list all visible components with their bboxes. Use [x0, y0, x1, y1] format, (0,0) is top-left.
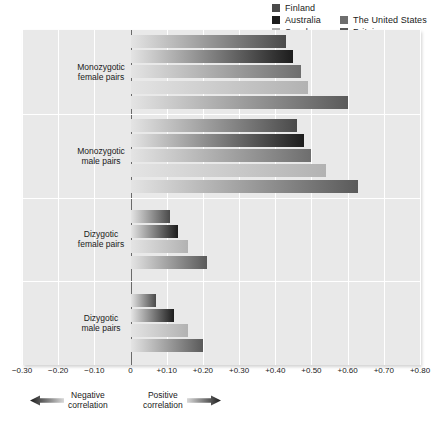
- x-tick-label: 0: [128, 366, 132, 376]
- bar-sweden: [131, 164, 326, 177]
- bar-britain: [131, 339, 203, 352]
- legend-swatch-icon: [272, 4, 280, 12]
- bar-britain: [131, 256, 207, 269]
- bar-group-dizygotic-male-pairs: Dizygoticmale pairs: [22, 281, 420, 365]
- legend-label: Australia: [285, 16, 321, 25]
- negative-correlation-note: Negative correlation: [30, 390, 108, 410]
- bar-finland: [131, 119, 297, 132]
- x-tick-label: −0.20: [48, 366, 68, 376]
- bar-group-monozygotic-male-pairs: Monozygoticmale pairs: [22, 114, 420, 198]
- bar-britain: [131, 180, 359, 193]
- bar-group-monozygotic-female-pairs: Monozygoticfemale pairs: [22, 30, 420, 114]
- x-tick-label: −0.10: [84, 366, 104, 376]
- bar-australia: [131, 134, 305, 147]
- bar-the-united-states: [131, 149, 312, 162]
- x-tick-label: +0.40: [265, 366, 285, 376]
- bar-the-united-states: [131, 65, 301, 78]
- group-label: Monozygoticfemale pairs: [58, 62, 144, 82]
- legend-label: The United States: [353, 16, 427, 25]
- legend-item-australia: Australia: [272, 14, 332, 26]
- x-tick-label: −0.30: [12, 366, 32, 376]
- group-label-line: Dizygotic: [58, 313, 144, 323]
- x-tick-label: +0.10: [157, 366, 177, 376]
- legend-item-the-united-states: The United States: [340, 14, 438, 26]
- left-arrow-icon: [30, 395, 64, 406]
- legend-item-finland: Finland: [272, 2, 332, 14]
- x-tick-label: +0.80: [410, 366, 430, 376]
- x-tick-label: +0.50: [301, 366, 321, 376]
- right-arrow-icon: [187, 395, 221, 406]
- bar-finland: [131, 35, 287, 48]
- gridline: [420, 30, 421, 365]
- group-label: Monozygoticmale pairs: [58, 146, 144, 166]
- bar-sweden: [131, 81, 308, 94]
- group-label-line: Monozygotic: [58, 62, 144, 72]
- group-label-line: female pairs: [58, 239, 144, 249]
- negative-correlation-label: Negative correlation: [68, 390, 108, 410]
- group-label: Dizygoticfemale pairs: [58, 229, 144, 249]
- x-tick-label: +0.70: [374, 366, 394, 376]
- group-label-line: female pairs: [58, 72, 144, 82]
- bar-britain: [131, 96, 348, 109]
- x-axis: −0.30−0.20−0.100+0.10+0.20+0.30+0.40+0.5…: [0, 366, 438, 382]
- chart-plot-area: Monozygoticfemale pairsMonozygoticmale p…: [22, 30, 420, 365]
- group-label: Dizygoticmale pairs: [58, 313, 144, 333]
- group-label-line: male pairs: [58, 323, 144, 333]
- legend-swatch-icon: [340, 16, 348, 24]
- x-tick-label: +0.30: [229, 366, 249, 376]
- bar-finland: [131, 210, 171, 223]
- positive-correlation-note: Positive correlation: [143, 390, 221, 410]
- group-label-line: Monozygotic: [58, 146, 144, 156]
- group-label-line: Dizygotic: [58, 229, 144, 239]
- positive-correlation-label: Positive correlation: [143, 390, 183, 410]
- x-tick-label: +0.60: [338, 366, 358, 376]
- bar-australia: [131, 50, 294, 63]
- legend-swatch-icon: [272, 16, 280, 24]
- bar-finland: [131, 294, 156, 307]
- group-label-line: male pairs: [58, 156, 144, 166]
- x-tick-label: +0.20: [193, 366, 213, 376]
- bar-groups: Monozygoticfemale pairsMonozygoticmale p…: [22, 30, 420, 365]
- bar-group-dizygotic-female-pairs: Dizygoticfemale pairs: [22, 198, 420, 282]
- correlation-direction-note: Negative correlation Positive correlatio…: [0, 388, 438, 422]
- legend-label: Finland: [285, 4, 315, 13]
